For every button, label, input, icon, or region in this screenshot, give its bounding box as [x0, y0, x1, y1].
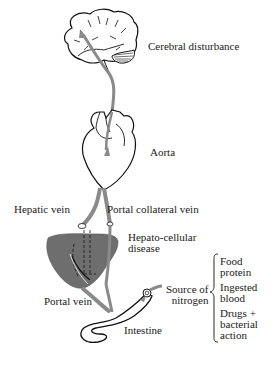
label-source-of-nitrogen: Source of nitrogen — [166, 284, 208, 306]
source-ingested-blood: Ingested blood — [220, 282, 257, 304]
label-portal-vein: Portal vein — [44, 295, 92, 307]
label-portal-collateral-vein: Portal collateral vein — [107, 203, 199, 215]
label-hepatic-vein: Hepatic vein — [14, 203, 70, 215]
source-food-protein: Food protein — [220, 256, 251, 278]
label-intestine: Intestine — [124, 324, 162, 336]
label-hepato-cellular-disease: Hepato-cellular disease — [128, 232, 196, 254]
hepatic-vein — [82, 188, 100, 226]
brace-icon — [210, 254, 218, 342]
label-aorta: Aorta — [150, 146, 175, 158]
label-cerebral-disturbance: Cerebral disturbance — [148, 40, 239, 52]
source-drugs-bacterial-action: Drugs + bacterial action — [220, 308, 258, 341]
